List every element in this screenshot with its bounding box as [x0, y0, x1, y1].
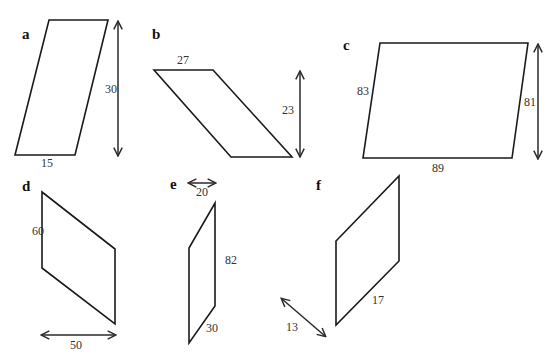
height-label-b: 23 — [282, 103, 294, 117]
parallelogram-b — [154, 70, 292, 157]
slant-label-e: 30 — [206, 321, 218, 335]
side-label-e: 82 — [225, 253, 237, 267]
base-label-b: 27 — [177, 53, 189, 67]
panel-label-c: c — [343, 37, 350, 53]
width-label-e: 20 — [196, 185, 208, 199]
panel-c: c 83 81 89 — [343, 37, 538, 175]
panel-label-d: d — [22, 178, 31, 194]
panel-label-f: f — [316, 177, 322, 193]
panel-d: d 60 50 — [22, 178, 115, 352]
height-label-a: 30 — [105, 82, 117, 96]
panel-b: b 27 23 — [152, 26, 300, 157]
distance-label-f: 13 — [286, 320, 298, 334]
parallelogram-figure: a 30 15 b 27 23 c 83 81 89 d 60 50 e 20 … — [0, 0, 559, 364]
panel-a: a 30 15 — [15, 20, 118, 170]
panel-label-a: a — [22, 26, 30, 42]
panel-f: f 17 13 — [282, 176, 399, 336]
parallelogram-d — [42, 192, 115, 324]
side-label-c: 83 — [357, 84, 369, 98]
slant-label-f: 17 — [372, 293, 384, 307]
height-label-c: 81 — [524, 95, 536, 109]
side-label-d: 60 — [32, 224, 44, 238]
parallelogram-c — [363, 43, 528, 158]
width-label-d: 50 — [70, 338, 82, 352]
parallelogram-f — [336, 176, 399, 325]
base-label-a: 15 — [41, 156, 53, 170]
base-label-c: 89 — [432, 161, 444, 175]
panel-e: e 20 82 30 — [170, 176, 237, 343]
panel-label-e: e — [170, 176, 177, 192]
panel-label-b: b — [152, 26, 160, 42]
